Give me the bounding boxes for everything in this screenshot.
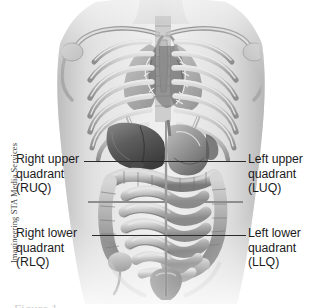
leader-line-rlq: [92, 235, 191, 236]
label-rlq-line3: (RLQ): [16, 255, 77, 270]
label-ruq-line2: quadrant: [16, 167, 79, 182]
label-luq-line2: quadrant: [248, 167, 303, 182]
label-ruq-line1: Right upper: [16, 152, 79, 167]
label-luq-line3: (LUQ): [248, 181, 303, 196]
label-llq-line2: quadrant: [248, 241, 301, 256]
label-left-lower-quadrant: Left lower quadrant (LLQ): [248, 226, 301, 270]
label-left-upper-quadrant: Left upper quadrant (LUQ): [248, 152, 303, 196]
label-rlq-line2: quadrant: [16, 241, 77, 256]
image-credit: Imagineering STA Media Services: [9, 123, 19, 283]
leader-line-ruq: [84, 161, 191, 162]
figure-caption-partial: Figure 1: [14, 302, 58, 308]
label-right-lower-quadrant: Right lower quadrant (RLQ): [16, 226, 77, 270]
label-ruq-line3: (RUQ): [16, 181, 79, 196]
label-llq-line3: (LLQ): [248, 255, 301, 270]
label-rlq-line1: Right lower: [16, 226, 77, 241]
leader-line-luq: [189, 161, 246, 162]
label-right-upper-quadrant: Right upper quadrant (RUQ): [16, 152, 79, 196]
label-luq-line1: Left upper: [248, 152, 303, 167]
figure-container: Right upper quadrant (RUQ) Right lower q…: [0, 0, 321, 308]
leader-line-llq: [189, 235, 246, 236]
midsagittal-divider-line: [165, 121, 167, 296]
label-llq-line1: Left lower: [248, 226, 301, 241]
